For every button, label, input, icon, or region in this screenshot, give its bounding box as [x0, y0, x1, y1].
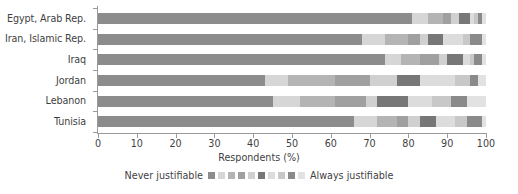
bar-segment: [420, 116, 436, 127]
bar-segment: [443, 34, 462, 45]
legend-swatch-4: [238, 172, 245, 179]
bar-segment: [463, 54, 471, 65]
bar-segment: [478, 75, 486, 86]
y-axis-label: Jordan: [0, 70, 92, 91]
bar-segment: [439, 54, 447, 65]
legend-swatch-2: [218, 172, 225, 179]
bar-segment: [408, 96, 431, 107]
y-axis-tick: [93, 70, 98, 71]
bar-segment: [98, 116, 354, 127]
plot-area: [98, 8, 486, 132]
legend-swatch-10: [298, 172, 305, 179]
bar-segment: [451, 96, 467, 107]
x-axis-title: Respondents (%): [0, 152, 518, 163]
y-axis-tick: [93, 111, 98, 112]
bar-segment: [428, 34, 444, 45]
bar-segment: [397, 75, 420, 86]
bar-segment: [482, 54, 486, 65]
bar-segment: [436, 116, 455, 127]
bar-segment: [401, 54, 420, 65]
x-axis-tick-label: 50: [286, 139, 298, 149]
bar-segment: [443, 13, 451, 24]
bar-segment: [370, 75, 397, 86]
y-axis-label: Egypt, Arab Rep.: [0, 8, 92, 29]
legend-label-always-justifiable: Always justifiable: [310, 170, 393, 181]
legend-swatch-8: [278, 172, 285, 179]
bar-row: [98, 49, 486, 70]
bar-segment: [455, 75, 471, 86]
bar-segment: [354, 116, 377, 127]
y-axis-tick: [93, 49, 98, 50]
stacked-bar: [98, 96, 486, 107]
bar-segment: [288, 75, 335, 86]
bar-segment: [408, 34, 420, 45]
bar-series-container: [98, 8, 486, 132]
legend-swatch-group: [208, 172, 305, 179]
bar-segment: [408, 116, 420, 127]
legend-swatch-6: [258, 172, 265, 179]
x-axis-tick-label: 60: [325, 139, 337, 149]
bar-segment: [377, 96, 408, 107]
bar-segment: [412, 13, 428, 24]
legend: Never justifiable Always justifiable: [0, 170, 518, 181]
bar-segment: [432, 96, 451, 107]
y-axis-tick: [93, 91, 98, 92]
bar-segment: [265, 75, 288, 86]
bar-segment: [447, 54, 463, 65]
legend-swatch-3: [228, 172, 235, 179]
legend-label-never-justifiable: Never justifiable: [125, 170, 203, 181]
x-axis-tick-label: 100: [477, 139, 495, 149]
bar-segment: [463, 34, 471, 45]
bar-segment: [362, 34, 385, 45]
x-axis-tick-label: 30: [208, 139, 220, 149]
stacked-bar-chart: Egypt, Arab Rep.Iran, Islamic Rep.IraqJo…: [0, 0, 518, 194]
x-axis-tick-label: 90: [441, 139, 453, 149]
y-axis-tick: [93, 8, 98, 9]
stacked-bar: [98, 75, 486, 86]
bar-segment: [98, 54, 385, 65]
x-axis-tick-label: 10: [131, 139, 143, 149]
bar-segment: [366, 96, 378, 107]
bar-segment: [273, 96, 300, 107]
bar-segment: [98, 34, 362, 45]
x-axis-tick-label: 40: [247, 139, 259, 149]
bar-segment: [474, 54, 482, 65]
bar-segment: [451, 13, 459, 24]
bar-segment: [467, 96, 486, 107]
legend-swatch-7: [268, 172, 275, 179]
bar-row: [98, 111, 486, 132]
legend-swatch-9: [288, 172, 295, 179]
bar-segment: [335, 75, 370, 86]
y-axis-label: Lebanon: [0, 91, 92, 112]
stacked-bar: [98, 116, 486, 127]
legend-swatch-1: [208, 172, 215, 179]
bar-segment: [335, 96, 366, 107]
bar-segment: [459, 13, 471, 24]
bar-segment: [420, 75, 455, 86]
bar-segment: [397, 116, 409, 127]
bar-segment: [98, 96, 273, 107]
bar-segment: [385, 54, 401, 65]
bar-segment: [420, 34, 428, 45]
legend-swatch-5: [248, 172, 255, 179]
x-axis-tick-label: 20: [169, 139, 181, 149]
bar-row: [98, 70, 486, 91]
stacked-bar: [98, 13, 486, 24]
y-axis-label: Iran, Islamic Rep.: [0, 29, 92, 50]
bar-row: [98, 29, 486, 50]
bar-segment: [470, 34, 482, 45]
bar-segment: [420, 54, 439, 65]
stacked-bar: [98, 54, 486, 65]
stacked-bar: [98, 34, 486, 45]
y-axis-label: Tunisia: [0, 111, 92, 132]
x-axis-tick-label: 0: [95, 139, 101, 149]
x-axis-tick-label: 80: [402, 139, 414, 149]
bar-segment: [300, 96, 335, 107]
bar-segment: [428, 13, 444, 24]
bar-segment: [482, 116, 486, 127]
bar-segment: [482, 13, 486, 24]
bar-row: [98, 91, 486, 112]
bar-segment: [482, 34, 486, 45]
bar-segment: [377, 116, 396, 127]
bar-segment: [455, 116, 467, 127]
